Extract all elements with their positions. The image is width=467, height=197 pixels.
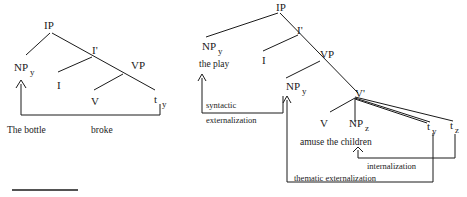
left-node-trace: ty xyxy=(154,94,167,105)
left-node-vp: VP xyxy=(131,60,145,71)
right-node-ip: IP xyxy=(276,2,286,13)
left-trace-index: y xyxy=(162,99,167,109)
right-node-vp: VP xyxy=(320,49,334,60)
right-np-mid-index: y xyxy=(302,86,307,96)
right-np-top-index: y xyxy=(218,46,223,56)
edge-vp-v xyxy=(94,74,123,90)
right-node-np-top: NPy xyxy=(202,41,223,52)
left-node-np: NPy xyxy=(14,62,35,73)
right-node-np-z: NPz xyxy=(349,118,369,129)
left-trace-label: t xyxy=(154,93,157,105)
left-node-v: V xyxy=(91,96,99,107)
right-node-ibar: I' xyxy=(297,25,303,36)
right-node-t-y: ty xyxy=(427,121,437,132)
syntactic-label-line2: externalization xyxy=(206,116,257,125)
syntactic-label-line1: syntactic xyxy=(206,101,236,110)
right-node-t-z: tz xyxy=(450,120,459,131)
edge-vbar-v xyxy=(330,98,355,112)
right-node-np-mid: NPy xyxy=(286,81,307,92)
right-node-v: V xyxy=(320,118,328,129)
left-node-ibar: I' xyxy=(92,45,98,56)
left-node-i: I xyxy=(57,80,61,91)
right-np-top-label: NP xyxy=(202,40,216,52)
right-np-mid-label: NP xyxy=(286,80,300,92)
right-np-z-index: z xyxy=(365,123,369,133)
internalization-label: internalization xyxy=(367,162,416,171)
edge-vbar-tz xyxy=(355,97,453,121)
right-node-vbar: V' xyxy=(355,88,365,99)
right-word-subject: the play xyxy=(199,60,229,70)
right-t-y-index: y xyxy=(432,126,437,136)
right-word-object: amuse the children xyxy=(300,138,372,148)
edge-vp-np xyxy=(286,61,320,78)
left-np-label: NP xyxy=(14,61,28,73)
edge-ip-np xyxy=(26,33,50,55)
right-node-i: I xyxy=(262,55,266,66)
edge-ibar-i xyxy=(58,57,92,72)
left-node-ip: IP xyxy=(44,20,54,31)
left-np-index: y xyxy=(30,67,35,77)
left-word-subject: The bottle xyxy=(7,126,46,136)
left-word-verb: broke xyxy=(91,126,113,136)
right-t-z-index: z xyxy=(455,125,459,135)
edge-ibar-i xyxy=(263,35,298,51)
right-t-y-label: t xyxy=(427,120,430,132)
right-np-z-label: NP xyxy=(349,117,363,129)
right-t-z-label: t xyxy=(450,119,453,131)
edge-ip-np-top xyxy=(206,13,278,37)
internalization-bracket xyxy=(358,134,455,158)
thematic-label: thematic externalization xyxy=(294,174,376,183)
